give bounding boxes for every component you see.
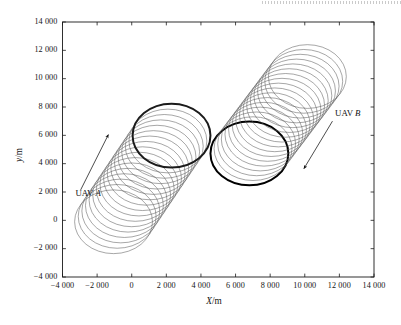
uav-track-a bbox=[75, 104, 211, 254]
y-tick-label: 12 000 bbox=[34, 45, 57, 54]
trajectory-layer bbox=[75, 45, 347, 254]
uav-track-b bbox=[210, 45, 346, 186]
y-tick-label: 4 000 bbox=[39, 158, 58, 167]
annotation-uav-b-text: UAV bbox=[335, 108, 355, 118]
y-tick-label: −2 000 bbox=[34, 243, 58, 252]
x-axis-title: X/m bbox=[206, 296, 222, 306]
annotation-uav-a-text: UAV bbox=[75, 188, 95, 198]
annotation-uav-b: UAV B bbox=[335, 108, 360, 118]
x-tick-label: 14 000 bbox=[352, 281, 396, 290]
y-tick-label: 0 bbox=[53, 215, 57, 224]
figure-root: −4 000−2 00002 0004 0006 0008 00010 0001… bbox=[0, 0, 401, 325]
y-tick-label: 14 000 bbox=[34, 17, 57, 26]
y-tick-label: 2 000 bbox=[39, 187, 58, 196]
y-tick-label: 10 000 bbox=[34, 73, 57, 82]
x-axis-unit: /m bbox=[212, 296, 222, 306]
y-axis-unit: /m bbox=[14, 148, 24, 158]
y-tick-label: −4 000 bbox=[34, 272, 58, 281]
annotation-uav-a-symbol: A bbox=[95, 188, 100, 198]
y-tick-label: 6 000 bbox=[39, 130, 58, 139]
trajectory-plot bbox=[0, 0, 401, 325]
y-axis-title: y/m bbox=[14, 148, 24, 162]
annotation-uav-b-symbol: B bbox=[355, 108, 360, 118]
y-tick-label: 8 000 bbox=[39, 102, 58, 111]
annotation-uav-a: UAV A bbox=[75, 188, 100, 198]
